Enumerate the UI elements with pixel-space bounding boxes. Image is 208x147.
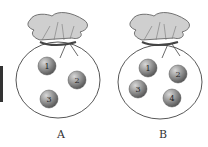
svg-text:4: 4 (169, 94, 174, 103)
bag-a: 1 2 3 (16, 13, 100, 118)
bag-b-label: B (153, 128, 173, 141)
ball-a-2: 2 (68, 71, 86, 89)
bag-a-label: A (51, 128, 71, 141)
svg-text:1: 1 (44, 62, 49, 71)
svg-text:2: 2 (74, 76, 79, 85)
bag-b: 1 2 3 4 (118, 13, 202, 119)
ball-b-2: 2 (169, 65, 187, 83)
ball-a-1: 1 (38, 57, 56, 75)
svg-text:3: 3 (135, 85, 140, 94)
ball-b-3: 3 (129, 80, 147, 98)
ball-a-3: 3 (40, 90, 58, 108)
bags-diagram: 1 2 3 1 2 3 4 (0, 0, 208, 147)
ball-b-1: 1 (139, 59, 157, 77)
ball-b-4: 4 (163, 89, 181, 107)
svg-text:3: 3 (46, 95, 51, 104)
svg-text:2: 2 (175, 70, 180, 79)
svg-text:1: 1 (145, 64, 150, 73)
